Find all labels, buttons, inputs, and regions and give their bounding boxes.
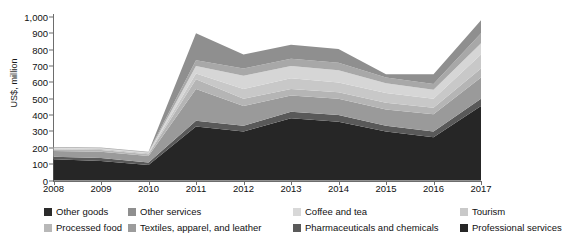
legend-swatch-icon	[44, 224, 52, 232]
legend-row-top: Other goodsOther servicesCoffee and teaT…	[44, 204, 527, 219]
legend-swatch-icon	[44, 208, 52, 216]
x-tick-mark	[291, 181, 292, 185]
x-tick-mark	[101, 181, 102, 185]
y-tick-mark	[49, 164, 53, 165]
legend-item[interactable]: Professional services	[460, 220, 562, 235]
x-tick-mark	[149, 181, 150, 185]
y-tick-mark	[49, 98, 53, 99]
y-tick-mark	[49, 49, 53, 50]
legend-swatch-icon	[460, 224, 468, 232]
y-tick-mark	[49, 17, 53, 18]
y-tick-mark	[49, 115, 53, 116]
x-tick-mark	[339, 181, 340, 185]
y-tick-mark	[49, 147, 53, 148]
legend-item[interactable]: Pharmaceuticals and chemicals	[293, 220, 439, 235]
x-tick-mark	[54, 181, 55, 185]
legend-item-label: Other services	[140, 207, 201, 217]
legend-item-label: Other goods	[56, 207, 108, 217]
legend-swatch-icon	[128, 224, 136, 232]
legend-item[interactable]: Processed food	[44, 220, 122, 235]
area-series-group	[0, 0, 527, 196]
x-tick-mark	[434, 181, 435, 185]
legend-item[interactable]: Other goods	[44, 204, 108, 219]
legend-swatch-icon	[293, 208, 301, 216]
plot-area: US$, million 010020030040050060070080090…	[0, 0, 527, 196]
chart-legend: Other goodsOther servicesCoffee and teaT…	[44, 204, 527, 240]
legend-item[interactable]: Coffee and tea	[293, 204, 367, 219]
x-tick-mark	[481, 181, 482, 185]
legend-item-label: Processed food	[56, 223, 122, 233]
y-tick-mark	[49, 82, 53, 83]
x-tick-mark	[196, 181, 197, 185]
legend-item[interactable]: Other services	[128, 204, 201, 219]
legend-row-bottom: Processed foodTextiles, apparel, and lea…	[44, 220, 527, 235]
y-tick-mark	[49, 131, 53, 132]
legend-item-label: Pharmaceuticals and chemicals	[305, 223, 439, 233]
y-tick-mark	[49, 33, 53, 34]
legend-swatch-icon	[460, 208, 468, 216]
legend-item[interactable]: Tourism	[460, 204, 505, 219]
legend-item-label: Professional services	[472, 223, 562, 233]
y-tick-mark	[49, 66, 53, 67]
legend-swatch-icon	[128, 208, 136, 216]
legend-item-label: Tourism	[472, 207, 505, 217]
legend-item-label: Textiles, apparel, and leather	[140, 223, 261, 233]
y-tick-mark	[49, 180, 53, 181]
legend-item[interactable]: Textiles, apparel, and leather	[128, 220, 261, 235]
x-tick-mark	[386, 181, 387, 185]
legend-item-label: Coffee and tea	[305, 207, 367, 217]
legend-swatch-icon	[293, 224, 301, 232]
x-tick-mark	[244, 181, 245, 185]
